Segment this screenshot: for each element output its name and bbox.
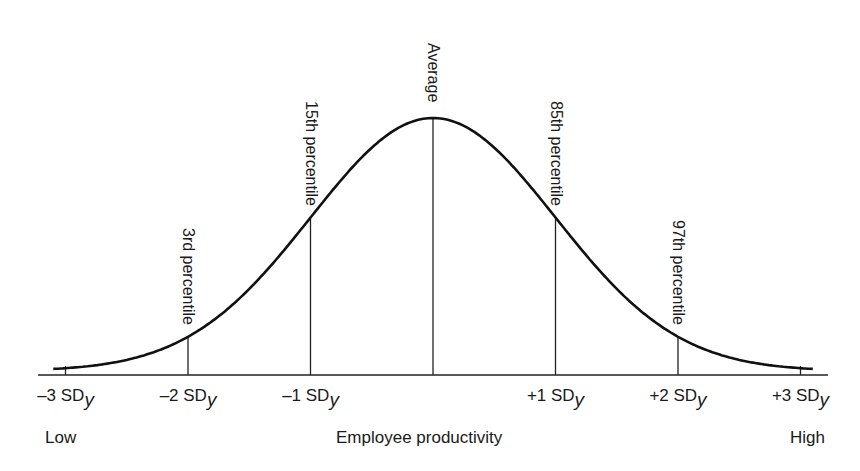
x-tick-label: –3 SDy bbox=[37, 384, 94, 406]
x-tick-label: +2 SDy bbox=[649, 384, 706, 406]
x-tick-label: –1 SDy bbox=[282, 384, 339, 406]
x-axis-low-label: Low bbox=[45, 428, 76, 448]
percentile-label: 3rd percentile bbox=[179, 228, 197, 325]
x-tick-label: +1 SDy bbox=[527, 384, 584, 406]
percentile-label: Average bbox=[424, 43, 442, 102]
x-axis-title: Employee productivity bbox=[336, 428, 502, 448]
percentile-label: 97th percentile bbox=[669, 220, 687, 325]
x-tick-label: –2 SDy bbox=[160, 384, 217, 406]
x-tick-label: +3 SDy bbox=[772, 384, 829, 406]
percentile-label: 15th percentile bbox=[302, 101, 320, 206]
percentile-label: 85th percentile bbox=[547, 101, 565, 206]
x-axis-high-label: High bbox=[790, 428, 825, 448]
sd-drop-lines bbox=[188, 118, 678, 375]
